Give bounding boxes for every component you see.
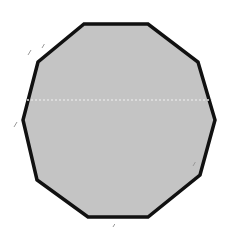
diagram-canvas	[0, 0, 226, 229]
decagon-shape	[23, 24, 215, 217]
speck	[14, 122, 17, 127]
speck	[42, 44, 44, 48]
speck	[113, 224, 115, 227]
speck	[28, 50, 31, 55]
